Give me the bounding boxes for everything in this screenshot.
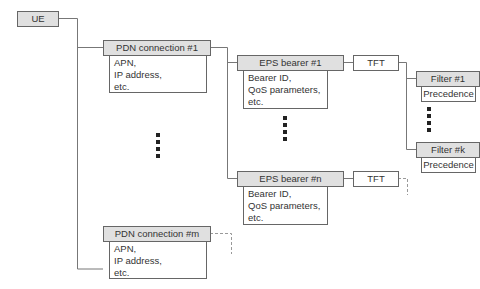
filter-1-precedence: Precedence xyxy=(421,86,476,102)
pdn-connection-m-details: APN, IP address, etc. xyxy=(109,241,207,279)
tft-1-box: TFT xyxy=(353,55,399,71)
pdn-connection-1-label: PDN connection #1 xyxy=(116,42,198,53)
tft-n-box: TFT xyxy=(353,171,399,187)
filter-1-precedence-label: Precedence xyxy=(423,88,474,99)
ellipsis-dot xyxy=(427,114,431,118)
ellipsis-dot xyxy=(156,140,160,144)
ellipsis-dot xyxy=(156,133,160,137)
ellipsis-dot xyxy=(283,123,287,127)
filter-1-label: Filter #1 xyxy=(431,73,465,84)
filter-k-label: Filter #k xyxy=(431,144,465,155)
ue-label: UE xyxy=(31,13,44,24)
pdn-connection-1-header: PDN connection #1 xyxy=(103,40,211,56)
ellipsis-dot xyxy=(427,128,431,132)
eps-bearer-n-details: Bearer ID, QoS parameters, etc. xyxy=(243,186,328,225)
tft-n-label: TFT xyxy=(367,173,384,184)
ellipsis-dot xyxy=(283,130,287,134)
pdn-connection-m-header: PDN connection #m xyxy=(103,226,211,242)
eps-bearer-1-label: EPS bearer #1 xyxy=(259,57,321,68)
eps-bearer-n-label: EPS bearer #n xyxy=(259,173,321,184)
filter-k-precedence: Precedence xyxy=(421,157,476,173)
pdn-connection-m-label: PDN connection #m xyxy=(115,228,199,239)
eps-bearer-1-details: Bearer ID, QoS parameters, etc. xyxy=(243,70,328,109)
ellipsis-dot xyxy=(156,154,160,158)
filter-1-header: Filter #1 xyxy=(416,71,480,87)
filter-k-header: Filter #k xyxy=(416,142,480,158)
eps-bearer-n-header: EPS bearer #n xyxy=(237,171,344,187)
tft-1-label: TFT xyxy=(367,57,384,68)
ue-box: UE xyxy=(17,11,59,27)
ellipsis-dot xyxy=(283,137,287,141)
eps-bearer-1-header: EPS bearer #1 xyxy=(237,55,344,71)
ellipsis-dot xyxy=(283,116,287,120)
ellipsis-dot xyxy=(427,121,431,125)
ellipsis-dot xyxy=(427,107,431,111)
pdn-connection-1-details: APN, IP address, etc. xyxy=(109,55,207,93)
ellipsis-dot xyxy=(156,147,160,151)
filter-k-precedence-label: Precedence xyxy=(423,159,474,170)
